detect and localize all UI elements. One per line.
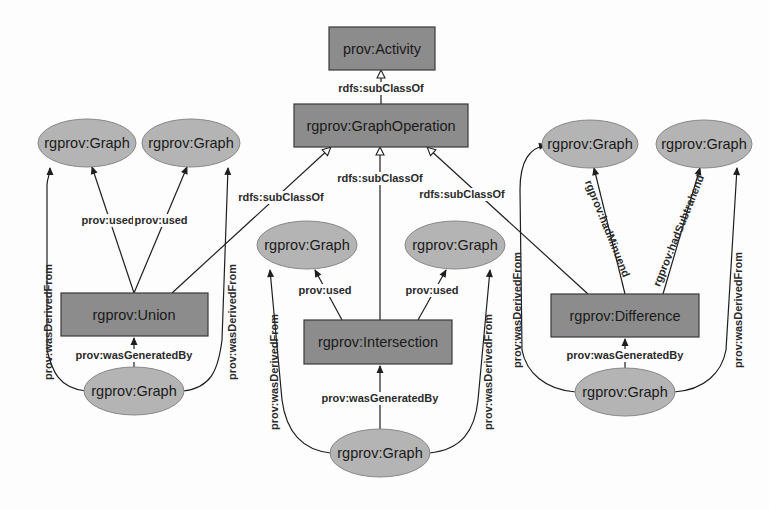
edge-label: prov:used: [298, 284, 351, 296]
node-intersection[interactable]: rgprov:Intersection: [304, 320, 452, 364]
edge-label: rdfs:subClassOf: [419, 188, 505, 200]
node-label: prov:Activity: [343, 41, 422, 57]
node-label: rgprov:Graph: [148, 135, 233, 151]
node-graph-operation[interactable]: rgprov:GraphOperation: [294, 104, 468, 147]
edge-union-used-1: [92, 167, 134, 293]
node-union-output[interactable]: rgprov:Graph: [84, 367, 184, 415]
node-label: rgprov:Graph: [337, 445, 422, 461]
node-label: rgprov:Graph: [44, 135, 129, 151]
node-activity[interactable]: prov:Activity: [329, 27, 435, 70]
edge-label: rdfs:subClassOf: [337, 172, 423, 184]
edge-label: rgprov:hadMinuend: [583, 178, 633, 278]
edge-union-used-2: [134, 167, 187, 293]
node-union-input-2[interactable]: rgprov:Graph: [142, 119, 240, 167]
edge-label: prov:wasGeneratedBy: [76, 349, 194, 361]
edge-label: prov:used: [405, 284, 458, 296]
node-label: rgprov:Graph: [412, 237, 497, 253]
node-label: rgprov:Intersection: [318, 334, 438, 350]
edge-label: rdfs:subClassOf: [238, 191, 324, 203]
node-label: rgprov:GraphOperation: [306, 118, 455, 134]
node-label: rgprov:Graph: [661, 136, 746, 152]
edge-label: prov:wasDerivedFrom: [511, 252, 523, 368]
diagram-svg: rdfs:subClassOf rdfs:subClassOf rdfs:sub…: [0, 0, 769, 509]
edge-label: rdfs:subClassOf: [338, 82, 424, 94]
node-union[interactable]: rgprov:Union: [61, 293, 208, 336]
node-label: rgprov:Graph: [91, 383, 176, 399]
edge-label: prov:used: [81, 214, 134, 226]
node-label: rgprov:Graph: [547, 136, 632, 152]
node-union-input-1[interactable]: rgprov:Graph: [38, 119, 136, 167]
node-difference-minuend[interactable]: rgprov:Graph: [542, 120, 638, 168]
edge-label: prov:wasDerivedFrom: [268, 314, 280, 430]
node-intersection-output[interactable]: rgprov:Graph: [330, 429, 430, 477]
edge-label: prov:wasGeneratedBy: [567, 349, 685, 361]
provenance-diagram: rdfs:subClassOf rdfs:subClassOf rdfs:sub…: [0, 0, 769, 509]
edge-label: prov:wasDerivedFrom: [42, 264, 54, 380]
edge-label: prov:wasGeneratedBy: [322, 392, 440, 404]
node-label: rgprov:Graph: [264, 237, 349, 253]
node-label: rgprov:Graph: [582, 384, 667, 400]
node-difference[interactable]: rgprov:Difference: [551, 294, 699, 337]
edge-label: prov:wasDerivedFrom: [732, 252, 744, 368]
node-label: rgprov:Difference: [570, 308, 681, 324]
node-label: rgprov:Union: [92, 307, 175, 323]
edge-label: prov:used: [134, 214, 187, 226]
edge-union-subclass: [172, 148, 330, 293]
edge-label: prov:wasDerivedFrom: [226, 264, 238, 380]
edge-label: prov:wasDerivedFrom: [482, 314, 494, 430]
edge-label: rgprov:hadSubtrahend: [650, 173, 706, 288]
node-difference-output[interactable]: rgprov:Graph: [575, 368, 675, 416]
node-difference-subtrahend[interactable]: rgprov:Graph: [656, 120, 752, 168]
node-intersection-input-1[interactable]: rgprov:Graph: [257, 221, 357, 269]
node-intersection-input-2[interactable]: rgprov:Graph: [405, 221, 505, 269]
